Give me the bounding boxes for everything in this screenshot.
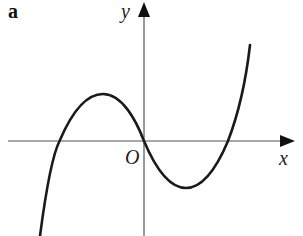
y-axis-arrow-icon	[138, 2, 150, 17]
panel-label: a	[8, 0, 18, 23]
x-axis-label: x	[279, 147, 288, 170]
x-axis-arrow-icon	[280, 135, 295, 147]
cubic-graph	[0, 0, 303, 236]
figure: a y x O	[0, 0, 303, 236]
origin-label: O	[125, 146, 139, 169]
y-axis-label: y	[121, 0, 130, 23]
